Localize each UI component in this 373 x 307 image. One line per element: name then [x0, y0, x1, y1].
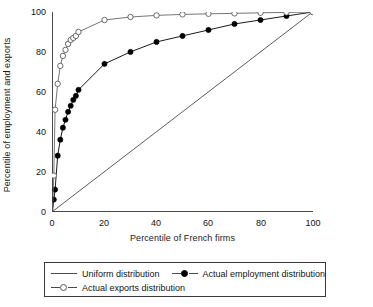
data-point-marker	[284, 12, 289, 15]
data-point-marker	[206, 27, 211, 32]
x-tick-label-100: 100	[298, 218, 328, 228]
data-point-marker	[63, 117, 68, 122]
y-tick-label-80: 80	[16, 47, 46, 57]
data-point-marker	[128, 14, 133, 19]
series-line	[53, 12, 313, 212]
data-point-marker	[206, 12, 211, 16]
data-point-marker	[102, 17, 107, 22]
data-point-marker	[55, 153, 60, 158]
series-uniform-distribution	[53, 12, 313, 212]
data-point-marker	[180, 12, 185, 17]
data-point-marker	[60, 125, 65, 130]
y-tick-label-100: 100	[16, 7, 46, 17]
chart-figure: 100 80 60 40 20 0 0 20 40 60 80 100 Perc…	[0, 0, 373, 307]
data-point-marker	[76, 87, 81, 92]
data-point-marker	[310, 12, 313, 15]
legend-item-actual-exports-distribution[interactable]: Actual exports distribution	[51, 283, 185, 293]
y-tick-label-60: 60	[16, 87, 46, 97]
data-point-marker	[76, 29, 81, 34]
y-axis-title: Percentile of employment and exports	[2, 15, 12, 215]
legend-label-actual-employment-distribution: Actual employment distribution	[203, 269, 326, 279]
data-point-marker	[128, 49, 133, 54]
data-point-marker	[154, 39, 159, 44]
x-tick-label-40: 40	[141, 218, 171, 228]
legend-row-2: Actual exports distribution	[51, 281, 319, 295]
data-point-marker	[73, 93, 78, 98]
legend-key-filled-circle-icon	[172, 269, 198, 279]
data-point-marker	[180, 33, 185, 38]
data-point-marker	[52, 173, 57, 178]
chart-canvas	[52, 12, 313, 212]
legend-row-1: Uniform distribution Actual employment d…	[51, 267, 319, 281]
data-point-marker	[258, 12, 263, 15]
x-tick-label-0: 0	[37, 218, 67, 228]
data-point-marker	[60, 53, 65, 58]
legend-label-uniform-distribution: Uniform distribution	[82, 269, 160, 279]
data-point-marker	[55, 81, 60, 86]
data-point-marker	[232, 12, 237, 16]
data-point-marker	[58, 63, 63, 68]
data-point-marker	[68, 103, 73, 108]
legend-key-line-icon	[51, 269, 77, 279]
x-tick-label-60: 60	[193, 218, 223, 228]
x-tick-label-80: 80	[246, 218, 276, 228]
data-point-marker	[154, 13, 159, 18]
legend-item-uniform-distribution[interactable]: Uniform distribution	[51, 269, 160, 279]
y-tick-label-40: 40	[16, 127, 46, 137]
data-point-marker	[258, 17, 263, 22]
data-point-marker	[58, 137, 63, 142]
data-point-marker	[66, 109, 71, 114]
x-tick-label-20: 20	[89, 218, 119, 228]
legend-key-open-circle-icon	[51, 283, 77, 293]
y-tick-label-20: 20	[16, 167, 46, 177]
data-point-marker	[102, 61, 107, 66]
data-point-marker	[232, 21, 237, 26]
legend-label-actual-exports-distribution: Actual exports distribution	[82, 283, 185, 293]
x-axis-title: Percentile of French firms	[52, 233, 313, 243]
plot-area	[52, 12, 313, 212]
y-tick-label-0: 0	[16, 207, 46, 217]
data-point-marker	[52, 107, 57, 112]
data-point-marker	[63, 47, 68, 52]
chart-legend: Uniform distribution Actual employment d…	[44, 262, 326, 297]
y-axis-title-wrapper: Percentile of employment and exports	[8, 205, 9, 206]
legend-item-actual-employment-distribution[interactable]: Actual employment distribution	[172, 269, 326, 279]
